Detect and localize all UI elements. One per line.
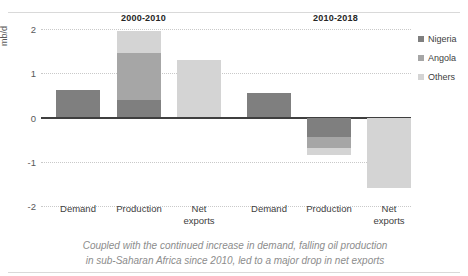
y-tick--1: -1 bbox=[6, 156, 36, 167]
x-axis-label-0: Demand bbox=[47, 203, 109, 215]
bar-2000-2010-Demand[interactable] bbox=[56, 29, 100, 206]
bar-segment-Others bbox=[177, 60, 221, 118]
bar-segment-Others bbox=[307, 148, 351, 155]
y-tick-1: 1 bbox=[6, 68, 36, 79]
legend-swatch-icon bbox=[418, 55, 424, 61]
bar-2000-2010-Production[interactable] bbox=[117, 29, 161, 206]
group-title-2010-2018: 2010-2018 bbox=[248, 13, 423, 23]
x-axis-label-2: Netexports bbox=[168, 203, 230, 226]
y-axis: 210-1-2 bbox=[0, 29, 36, 206]
legend-item-angola[interactable]: Angola bbox=[418, 50, 457, 65]
chart-caption: Coupled with the continued increase in d… bbox=[30, 238, 440, 268]
legend-label: Nigeria bbox=[428, 34, 457, 44]
slide-canvas: 2000-2010 2010-2018 mb/d 210-1-2 Nigeria… bbox=[0, 0, 468, 276]
bar-2000-2010-Net exports[interactable] bbox=[177, 29, 221, 206]
bar-segment-Nigeria bbox=[56, 90, 100, 117]
x-label-line1: Production bbox=[116, 203, 161, 214]
bar-2010-2018-Net exports[interactable] bbox=[367, 29, 411, 206]
bar-2010-2018-Demand[interactable] bbox=[247, 29, 291, 206]
x-label-line1: Demand bbox=[251, 203, 287, 214]
group-title-2000-2010: 2000-2010 bbox=[56, 13, 231, 23]
legend-swatch-icon bbox=[418, 36, 424, 42]
bar-2010-2018-Production[interactable] bbox=[307, 29, 351, 206]
x-axis-label-3: Demand bbox=[238, 203, 300, 215]
legend-label: Others bbox=[428, 72, 455, 82]
legend-item-others[interactable]: Others bbox=[418, 69, 457, 84]
x-label-line1: Net bbox=[192, 203, 207, 214]
x-axis-label-1: Production bbox=[108, 203, 170, 215]
bar-segment-Angola bbox=[117, 53, 161, 99]
bar-segment-Angola bbox=[307, 137, 351, 148]
bar-segment-Others bbox=[117, 31, 161, 53]
legend-label: Angola bbox=[428, 53, 456, 63]
x-label-line2: exports bbox=[373, 215, 404, 226]
y-tick-2: 2 bbox=[6, 24, 36, 35]
y-tick--2: -2 bbox=[6, 201, 36, 212]
bar-segment-Nigeria bbox=[307, 118, 351, 138]
bottom-divider bbox=[8, 272, 460, 273]
y-tick-0: 0 bbox=[6, 112, 36, 123]
x-axis-label-5: Netexports bbox=[358, 203, 420, 226]
x-label-line1: Demand bbox=[60, 203, 96, 214]
caption-line-2: in sub-Saharan Africa since 2010, led to… bbox=[86, 255, 385, 266]
x-label-line1: Net bbox=[382, 203, 397, 214]
x-label-line1: Production bbox=[306, 203, 351, 214]
x-label-line2: exports bbox=[183, 215, 214, 226]
legend-swatch-icon bbox=[418, 74, 424, 80]
plot-area bbox=[41, 29, 411, 206]
bar-segment-Nigeria bbox=[247, 93, 291, 118]
caption-line-1: Coupled with the continued increase in d… bbox=[83, 240, 388, 251]
x-axis-label-4: Production bbox=[298, 203, 360, 215]
bar-segment-Nigeria bbox=[117, 100, 161, 118]
chart-legend: NigeriaAngolaOthers bbox=[418, 31, 457, 88]
bar-segment-Others bbox=[367, 118, 411, 189]
legend-item-nigeria[interactable]: Nigeria bbox=[418, 31, 457, 46]
